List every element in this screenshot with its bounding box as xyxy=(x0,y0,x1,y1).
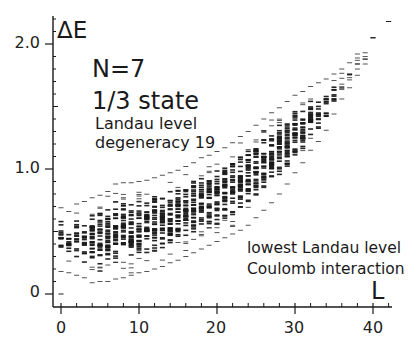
y-axis-label: ΔE xyxy=(57,17,87,43)
annotation-coulomb-interaction: Coulomb interaction xyxy=(247,260,405,278)
energy-spectrum-chart: ΔE N=7 1/3 state Landau level degeneracy… xyxy=(0,0,415,360)
annotation-lowest-landau-level: lowest Landau level xyxy=(247,239,401,257)
x-tick-label-30: 30 xyxy=(279,318,309,337)
x-axis-label: L xyxy=(371,277,384,305)
x-tick-label-0: 0 xyxy=(46,318,76,337)
y-tick-label-2: 2.0 xyxy=(0,33,40,52)
x-tick-label-10: 10 xyxy=(124,318,154,337)
x-tick-label-20: 20 xyxy=(201,318,231,337)
annotation-degeneracy: degeneracy 19 xyxy=(95,133,215,152)
chart-title-filling: 1/3 state xyxy=(92,87,199,115)
plot-area xyxy=(0,0,415,360)
x-tick-label-40: 40 xyxy=(358,318,388,337)
annotation-landau-level: Landau level xyxy=(95,114,197,133)
y-tick-label-1: 1.0 xyxy=(0,158,40,177)
chart-title-particle-count: N=7 xyxy=(92,55,145,83)
y-tick-label-0: 0 xyxy=(0,282,40,301)
